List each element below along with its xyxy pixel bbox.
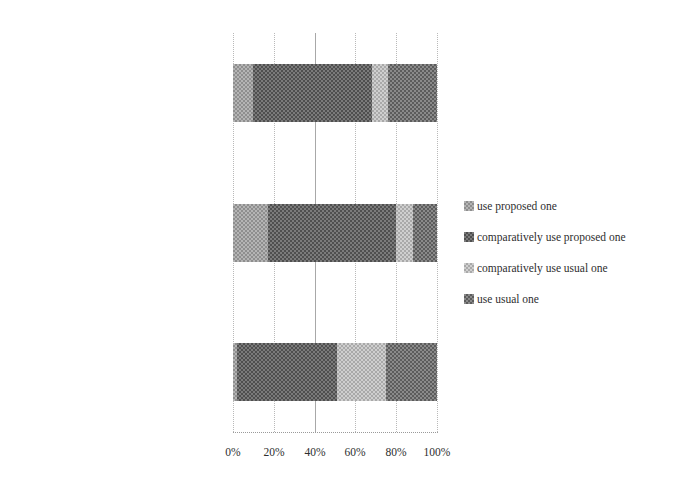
bar-segment[interactable]	[396, 204, 412, 262]
bar-segment[interactable]	[388, 64, 437, 122]
bar-segment[interactable]	[253, 64, 371, 122]
legend-item-label: use usual one	[477, 293, 539, 305]
legend-swatch-icon	[464, 232, 474, 242]
legend-item-comparatively-use-proposed-one[interactable]: comparatively use proposed one	[464, 221, 686, 252]
legend-swatch-icon	[464, 201, 474, 211]
plot-region	[233, 33, 437, 432]
bar-segment[interactable]	[268, 204, 397, 262]
legend-item-use-proposed-one[interactable]: use proposed one	[464, 190, 686, 221]
bar-row[interactable]	[233, 343, 437, 401]
xtick-label-40: 40%	[293, 446, 337, 458]
legend-item-label: comparatively use proposed one	[477, 231, 626, 243]
xtick-label-100: 100%	[415, 446, 459, 458]
legend-swatch-icon	[464, 263, 474, 273]
chart-legend: use proposed one comparatively use propo…	[464, 190, 686, 314]
bar-segment[interactable]	[372, 64, 388, 122]
bar-row[interactable]	[233, 204, 437, 262]
legend-item-comparatively-use-usual-one[interactable]: comparatively use usual one	[464, 252, 686, 283]
xtick-label-0: 0%	[211, 446, 255, 458]
bar-segment[interactable]	[233, 64, 253, 122]
bar-segment[interactable]	[337, 343, 386, 401]
bar-segment[interactable]	[233, 204, 268, 262]
bar-segment[interactable]	[413, 204, 437, 262]
legend-item-use-usual-one[interactable]: use usual one	[464, 283, 686, 314]
xtick-label-20: 20%	[252, 446, 296, 458]
gridline-100	[437, 33, 439, 432]
xtick-label-80: 80%	[374, 446, 418, 458]
bar-segment[interactable]	[386, 343, 437, 401]
chart-area: Those who stopped although diet therapy …	[0, 0, 460, 486]
bar-row[interactable]	[233, 64, 437, 122]
legend-item-label: comparatively use usual one	[477, 262, 608, 274]
xtick-label-60: 60%	[333, 446, 377, 458]
legend-swatch-icon	[464, 294, 474, 304]
x-axis-line	[233, 432, 438, 434]
bar-segment[interactable]	[237, 343, 337, 401]
legend-item-label: use proposed one	[477, 200, 557, 212]
